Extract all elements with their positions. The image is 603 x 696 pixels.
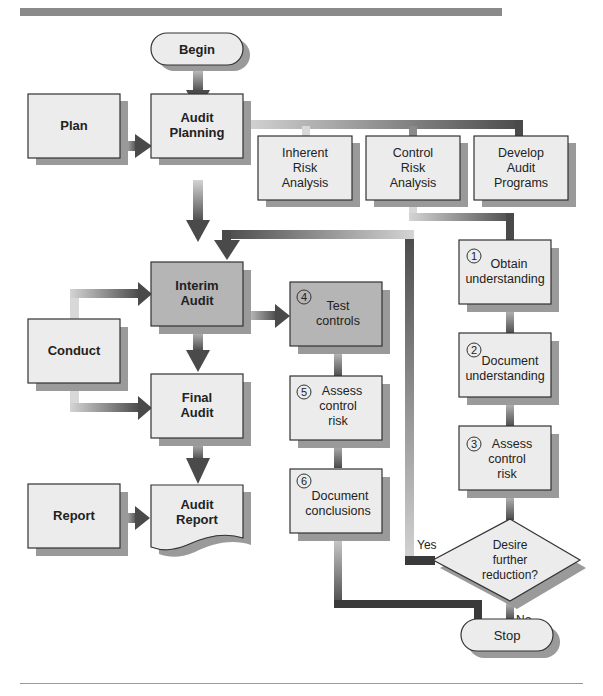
step2-label-1: Document xyxy=(482,354,539,368)
step4-label-1: Test xyxy=(327,299,350,313)
stop-label: Stop xyxy=(494,628,521,643)
develop-label-3: Programs xyxy=(494,176,548,190)
node-decision-desire-further-reduction: Desire further reduction? xyxy=(433,519,586,609)
interim-label-2: Audit xyxy=(180,293,214,308)
develop-label-1: Develop xyxy=(498,146,544,160)
node-step6-document-conclusions: 6 Document conclusions xyxy=(290,469,390,541)
interim-label-1: Interim xyxy=(175,278,218,293)
inherent-label-1: Inherent xyxy=(282,146,328,160)
audit-report-label-1: Audit xyxy=(180,497,214,512)
node-step5-assess-control-risk: 5 Assess control risk xyxy=(290,376,390,448)
node-interim-audit: Interim Audit xyxy=(151,262,251,334)
step4-number: 4 xyxy=(301,291,307,303)
decision-label-2: further xyxy=(493,553,528,567)
node-control-risk-analysis: Control Risk Analysis xyxy=(366,136,468,207)
node-step3-assess-control-risk: 3 Assess control risk xyxy=(459,426,559,498)
arrowhead xyxy=(138,282,152,306)
connector-step6-stop-v xyxy=(334,533,342,605)
final-label-1: Final xyxy=(182,390,212,405)
audit-report-label-2: Report xyxy=(176,512,219,527)
step2-number: 2 xyxy=(471,344,477,356)
decision-label-3: reduction? xyxy=(482,568,538,582)
node-step4-test-controls: 4 Test controls xyxy=(290,282,390,354)
node-final-audit: Final Audit xyxy=(151,374,251,446)
control-label-1: Control xyxy=(393,146,433,160)
node-plan: Plan xyxy=(28,94,128,165)
audit-planning-label-2: Planning xyxy=(170,125,225,140)
control-label-3: Analysis xyxy=(390,176,437,190)
node-step1-obtain-understanding: 1 Obtain understanding xyxy=(459,240,559,312)
node-begin: Begin xyxy=(151,33,250,71)
footer-rule xyxy=(20,683,583,684)
step3-label-3: risk xyxy=(497,467,517,481)
step3-label-2: control xyxy=(488,452,526,466)
arrowhead xyxy=(186,350,210,372)
step6-label-1: Document xyxy=(312,489,369,503)
step6-number: 6 xyxy=(301,475,307,487)
final-label-2: Audit xyxy=(180,405,214,420)
arrowhead xyxy=(186,220,210,242)
connector-feedback-vertical xyxy=(405,232,414,564)
step5-label-3: risk xyxy=(328,414,348,428)
connector-yes xyxy=(405,556,435,565)
connector-planning-branch xyxy=(243,120,523,129)
step1-number: 1 xyxy=(471,250,477,262)
step6-label-2: conclusions xyxy=(305,504,370,518)
step3-number: 3 xyxy=(471,438,477,450)
decision-label-1: Desire xyxy=(493,538,528,552)
arrowhead xyxy=(138,396,152,420)
node-conduct: Conduct xyxy=(28,319,128,391)
connector-conduct-interim xyxy=(70,289,140,298)
node-stop: Stop xyxy=(461,619,560,658)
arrowhead xyxy=(186,458,210,484)
step1-label-1: Obtain xyxy=(491,257,528,271)
control-label-2: Risk xyxy=(401,161,426,175)
inherent-label-2: Risk xyxy=(293,161,318,175)
begin-label: Begin xyxy=(179,42,215,57)
arrowhead xyxy=(135,134,152,158)
node-audit-planning: Audit Planning xyxy=(151,94,251,165)
audit-planning-label-1: Audit xyxy=(180,110,214,125)
step5-label-2: control xyxy=(319,399,357,413)
step2-label-2: understanding xyxy=(465,369,544,383)
audit-flowchart: Begin Plan Audit Planning Inherent Risk … xyxy=(0,0,603,696)
connector-control-step1 xyxy=(409,213,514,221)
report-label: Report xyxy=(53,508,96,523)
step5-number: 5 xyxy=(301,386,307,398)
yes-edge-label: Yes xyxy=(417,538,437,552)
step5-label-1: Assess xyxy=(322,384,362,398)
node-develop-audit-programs: Develop Audit Programs xyxy=(474,136,576,207)
node-audit-report: Audit Report xyxy=(151,485,251,557)
arrowhead xyxy=(135,506,150,530)
node-report: Report xyxy=(28,484,128,556)
plan-label: Plan xyxy=(60,118,88,133)
node-step2-document-understanding: 2 Document understanding xyxy=(459,333,559,405)
connector-planning-interim xyxy=(193,180,203,222)
inherent-label-3: Analysis xyxy=(282,176,329,190)
connector-feedback-top xyxy=(222,230,414,239)
node-inherent-risk-analysis: Inherent Risk Analysis xyxy=(258,136,360,207)
connector-step6-stop-h xyxy=(334,600,482,608)
arrowhead xyxy=(214,240,240,260)
step1-label-2: understanding xyxy=(465,272,544,286)
step3-label-1: Assess xyxy=(492,437,532,451)
conduct-label: Conduct xyxy=(48,343,101,358)
step4-label-2: controls xyxy=(316,314,360,328)
connector-conduct-final xyxy=(70,403,140,412)
develop-label-2: Audit xyxy=(507,161,536,175)
arrowhead xyxy=(275,304,290,328)
